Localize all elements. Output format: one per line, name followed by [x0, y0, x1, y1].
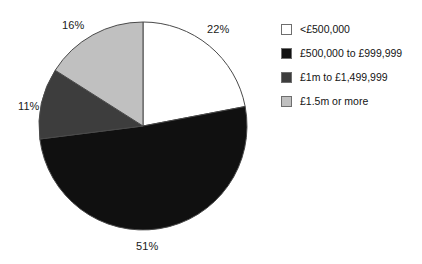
legend-item: £500,000 to £999,999: [281, 41, 421, 65]
pie-slice-group: [39, 22, 247, 230]
legend-item: £1.5m or more: [281, 89, 421, 113]
legend-item-label: £1m to £1,499,999: [300, 71, 388, 83]
legend-swatch-icon: [281, 72, 292, 83]
legend-item: £1m to £1,499,999: [281, 65, 421, 89]
legend-item: <£500,000: [281, 17, 421, 41]
pie-svg: [0, 0, 268, 264]
legend-swatch-icon: [281, 48, 292, 59]
chart-legend: <£500,000 £500,000 to £999,999 £1m to £1…: [281, 17, 421, 113]
pie-plot-area: 22% 51% 11% 16%: [0, 0, 268, 264]
pie-data-label-1: 51%: [136, 240, 158, 252]
legend-item-label: <£500,000: [300, 23, 350, 35]
pie-data-label-3: 16%: [62, 19, 84, 31]
pie-data-label-0: 22%: [207, 23, 229, 35]
pie-chart-figure: 22% 51% 11% 16% <£500,000 £500,000 to £9…: [0, 0, 422, 264]
legend-item-label: £500,000 to £999,999: [300, 47, 402, 59]
pie-data-label-2: 11%: [18, 100, 40, 112]
legend-item-label: £1.5m or more: [300, 95, 368, 107]
legend-swatch-icon: [281, 96, 292, 107]
legend-swatch-icon: [281, 24, 292, 35]
